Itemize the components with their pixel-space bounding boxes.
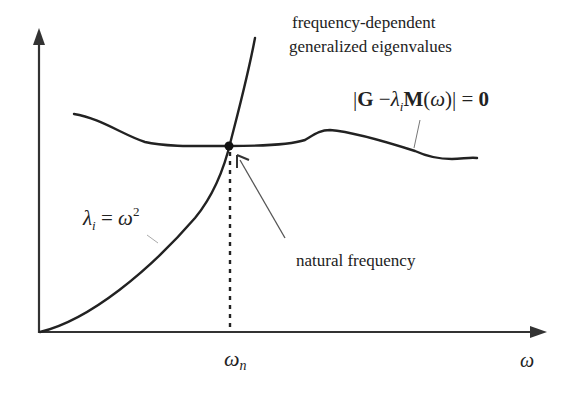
title-label-line2: generalized eigenvalues [289, 37, 452, 56]
omega-n-label: ωn [224, 346, 247, 373]
x-axis-arrow-icon [530, 326, 547, 338]
natural-frequency-pointer [237, 155, 285, 238]
natural-frequency-label: natural frequency [296, 251, 416, 270]
x-axis-label: ω [520, 349, 534, 371]
equation-leader-line [414, 120, 420, 148]
x-axis [38, 326, 547, 338]
intersection-point [225, 142, 234, 151]
y-axis-arrow-icon [33, 28, 45, 45]
y-axis [33, 28, 45, 333]
parabola-leader-line [147, 235, 158, 243]
title-label-line1: frequency-dependent [292, 13, 436, 32]
parabola-curve [40, 38, 255, 332]
equation-label: |G −λiM(ω)| = 0 [353, 87, 489, 114]
parabola-label: λi = ω2 [82, 204, 139, 233]
eigenvalue-diagram: frequency-dependent generalized eigenval… [0, 0, 566, 394]
